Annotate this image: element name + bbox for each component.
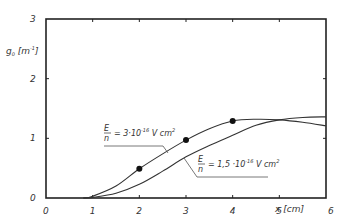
- y-axis-label: g0 [m-1]: [6, 45, 39, 57]
- x-tick-label: 4: [230, 206, 236, 216]
- svg-text:E: E: [104, 124, 110, 133]
- annotations: En= 3·10-16 V cm2En= 1,5 ·10-16 V cm2: [104, 124, 279, 177]
- x-tick-label: 0: [43, 206, 49, 216]
- data-point: [230, 118, 236, 124]
- x-axis-label: x [cm]: [274, 204, 304, 214]
- svg-text:n: n: [104, 134, 109, 143]
- data-point: [183, 137, 189, 143]
- chart: 01234560123 En= 3·10-16 V cm2En= 1,5 ·10…: [0, 0, 339, 222]
- axis-ticks: 01234560123: [30, 14, 334, 216]
- x-tick-label: 1: [90, 206, 96, 216]
- plot-frame: [46, 19, 326, 198]
- y-tick-label: 2: [30, 74, 36, 84]
- series-annotation: En= 3·10-16 V cm2: [104, 124, 175, 153]
- y-tick-label: 3: [30, 14, 36, 24]
- svg-text:= 3·10-16 V cm2: = 3·10-16 V cm2: [114, 127, 175, 138]
- svg-text:n: n: [198, 165, 203, 174]
- x-tick-label: 6: [328, 206, 334, 216]
- svg-text:E: E: [198, 155, 204, 164]
- x-tick-label: 2: [136, 206, 142, 216]
- data-point: [136, 166, 142, 172]
- svg-text:= 1,5 ·10-16 V cm2: = 1,5 ·10-16 V cm2: [208, 158, 279, 169]
- series-annotation: En= 1,5 ·10-16 V cm2: [184, 155, 279, 177]
- x-tick-label: 3: [183, 206, 189, 216]
- y-tick-label: 1: [30, 133, 36, 143]
- y-tick-label: 0: [30, 193, 36, 203]
